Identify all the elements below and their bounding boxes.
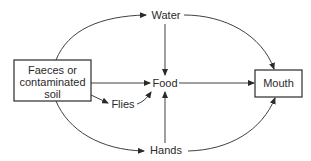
source-node: Faeces or contaminated soil <box>14 60 91 101</box>
food-label: Food <box>152 77 177 89</box>
edge-hands-mouth <box>188 98 275 151</box>
source-label-line3: soil <box>44 88 61 100</box>
flies-label: Flies <box>111 98 135 110</box>
edge-water-mouth <box>184 15 274 69</box>
mouth-node: Mouth <box>255 70 302 97</box>
edge-source-water <box>56 15 146 60</box>
edge-flies-food <box>137 92 151 104</box>
mouth-label: Mouth <box>263 77 294 89</box>
hands-label: Hands <box>150 144 182 156</box>
edge-source-flies <box>91 95 108 103</box>
water-label: Water <box>152 9 181 21</box>
source-label-line1: Faeces or <box>28 64 77 76</box>
transmission-diagram: Faeces or contaminated soil Mouth Water … <box>0 0 311 161</box>
source-label-line2: contaminated <box>19 76 85 88</box>
